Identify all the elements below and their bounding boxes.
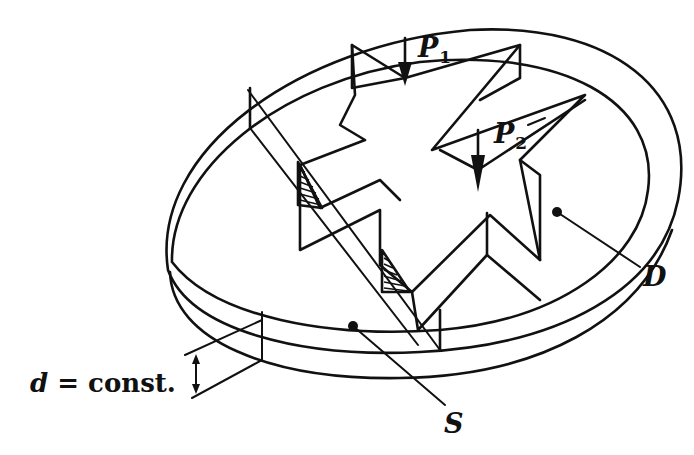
- plate-top-edge: [167, 29, 682, 352]
- leader-p2: [528, 118, 545, 125]
- cross-inner-3: [300, 165, 400, 208]
- hatched-face-lower: [382, 250, 410, 292]
- label-p2: P2: [494, 120, 527, 152]
- cross-inner-5: [412, 255, 487, 330]
- section-line: [248, 90, 440, 350]
- label-boundary: S: [444, 410, 464, 437]
- section-line-2: [250, 128, 418, 345]
- label-domain: D: [643, 263, 666, 290]
- label-p1: P1: [418, 34, 451, 66]
- diagram-canvas: P1 P2 D S d = const.: [0, 0, 694, 455]
- load-arrow-p2: [471, 130, 485, 192]
- cross-block: [300, 45, 585, 292]
- leader-d: [552, 207, 640, 267]
- plate-bottom-edge: [170, 230, 672, 378]
- label-thickness: d = const.: [30, 370, 176, 396]
- leader-s: [348, 321, 445, 405]
